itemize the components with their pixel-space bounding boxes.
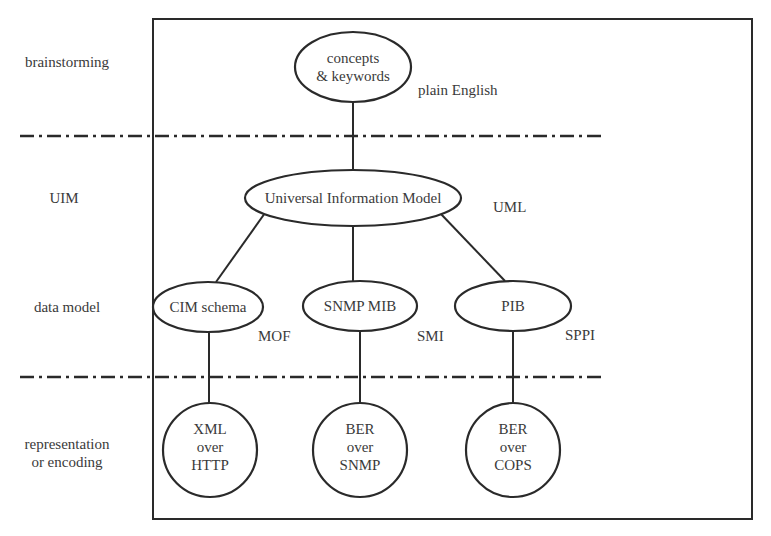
svg-text:over: over [197,439,224,455]
language-label-sppi: SPPI [565,327,595,343]
svg-text:SNMP MIB: SNMP MIB [324,298,396,314]
svg-text:BER: BER [498,421,527,437]
language-label-smi: SMI [417,328,444,344]
svg-text:data model: data model [34,299,100,315]
svg-text:& keywords: & keywords [316,68,390,84]
node-ber-over-snmp: BER over SNMP [313,403,407,497]
svg-text:over: over [347,439,374,455]
layer-label-data-model: data model [34,299,100,315]
node-snmp-mib: SNMP MIB [303,281,417,331]
svg-text:concepts: concepts [327,50,380,66]
layer-label-uim: UIM [49,190,78,206]
node-universal-information-model: Universal Information Model [245,170,461,226]
svg-text:HTTP: HTTP [191,457,229,473]
svg-text:over: over [500,439,527,455]
node-xml-over-http: XML over HTTP [163,403,257,497]
edge-uim-pib [440,213,505,281]
edge-uim-cim [216,213,265,282]
node-pib: PIB [455,281,571,331]
node-cim-schema: CIM schema [153,282,263,332]
layer-label-representation: representation or encoding [25,436,110,470]
svg-text:brainstorming: brainstorming [25,54,110,70]
node-shape [295,32,411,102]
svg-text:SNMP: SNMP [340,457,381,473]
node-concepts-keywords: concepts & keywords [295,32,411,102]
language-label-plain-english: plain English [418,82,498,98]
language-label-mof: MOF [258,328,291,344]
information-model-diagram: brainstorming UIM data model representat… [0,0,771,536]
layer-label-brainstorming: brainstorming [25,54,110,70]
svg-text:CIM schema: CIM schema [169,299,246,315]
svg-text:BER: BER [345,421,374,437]
svg-text:representation: representation [25,436,110,452]
svg-text:Universal Information Model: Universal Information Model [265,190,442,206]
svg-text:COPS: COPS [494,457,532,473]
language-label-uml: UML [493,199,526,215]
svg-text:UIM: UIM [49,190,78,206]
node-ber-over-cops: BER over COPS [466,403,560,497]
svg-text:PIB: PIB [501,298,524,314]
svg-text:XML: XML [193,421,226,437]
svg-text:or encoding: or encoding [31,454,103,470]
